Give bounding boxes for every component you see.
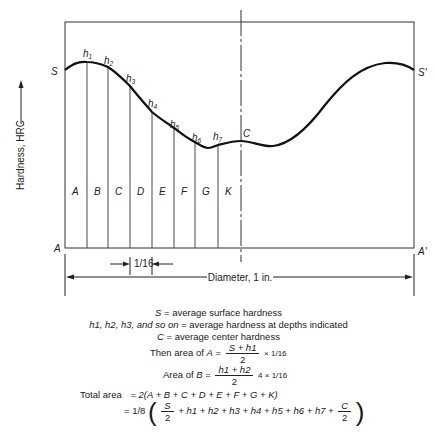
svg-text:E: E xyxy=(159,186,166,197)
legend-depths: h1, h2, h3, and so on = average hardness… xyxy=(0,319,437,330)
formula-area-b: Area of B = h1 + h2 2 4 × 1/16 xyxy=(163,364,287,387)
legend-center: C = average center hardness xyxy=(0,331,437,342)
surface-label-right: S' xyxy=(418,67,428,78)
depth-labels: h1 h2 h3 h4 h5 h6 h7 xyxy=(83,48,223,144)
segment-dividers xyxy=(87,62,218,248)
legend-text-s: = average surface hardness xyxy=(161,307,282,318)
formula-b-suffix: 4 × 1/16 xyxy=(258,371,287,380)
y-axis-label: Hardness, HRC xyxy=(15,120,26,190)
svg-text:K: K xyxy=(225,186,233,197)
hardness-profile-diagram: Hardness, HRC S S' A A' C h1 h2 h3 h4 h5… xyxy=(0,0,437,300)
svg-text:h7: h7 xyxy=(213,131,223,143)
baseline-label-left: A xyxy=(53,243,61,254)
total-terms: + h1 + h2 + h3 + h4 + h5 + h6 + h7 + xyxy=(178,405,333,416)
svg-text:F: F xyxy=(181,186,188,197)
legend-text-h: = average hardness at depths indicated xyxy=(179,319,348,330)
center-hardness-label: C xyxy=(243,128,251,139)
formula-total-line2: = 1/8 ( S 2 + h1 + h2 + h3 + h4 + h5 + h… xyxy=(124,400,364,423)
formula-b-fraction: h1 + h2 2 xyxy=(215,364,253,387)
svg-text:C: C xyxy=(115,186,123,197)
svg-text:h1: h1 xyxy=(83,48,93,60)
formula-area-a: Then area of A = S + h1 2 × 1/16 xyxy=(150,342,287,365)
formula-total-line1: Total area = 2(A + B + C + D + E + F + G… xyxy=(80,389,278,400)
legend-text-c: = average center hardness xyxy=(164,331,280,342)
increment-label: 1/16 xyxy=(134,258,154,269)
surface-label-left: S xyxy=(51,66,58,77)
c-over-2-fraction: C 2 xyxy=(338,400,351,423)
hardness-curve xyxy=(65,62,414,148)
svg-text:h6: h6 xyxy=(192,132,202,144)
svg-text:B: B xyxy=(94,186,101,197)
y-axis-arrow xyxy=(19,80,24,124)
legend-symbol-c: C xyxy=(157,331,164,342)
total-area-label: Total area xyxy=(80,389,122,400)
svg-text:D: D xyxy=(137,186,144,197)
formula-b-prefix: Area of xyxy=(163,369,196,380)
formula-a-var: A xyxy=(207,347,213,358)
diameter-label: Diameter, 1 in. xyxy=(208,272,272,283)
s-over-2-fraction: S 2 xyxy=(161,400,173,423)
legend-symbol-h: h1, h2, h3, and so on xyxy=(89,319,178,330)
plot-frame xyxy=(65,22,414,248)
svg-text:h5: h5 xyxy=(170,119,180,131)
formula-a-fraction: S + h1 2 xyxy=(226,342,260,365)
formula-a-prefix: Then area of xyxy=(150,347,207,358)
legend-surface: S = average surface hardness xyxy=(0,307,437,318)
total-factor: = 1/8 xyxy=(124,405,145,416)
svg-text:A: A xyxy=(71,186,79,197)
formula-b-var: B xyxy=(196,369,202,380)
svg-text:h4: h4 xyxy=(148,98,158,110)
svg-text:h3: h3 xyxy=(126,73,136,85)
svg-text:G: G xyxy=(202,186,210,197)
svg-text:h2: h2 xyxy=(104,55,114,67)
formula-a-suffix: × 1/16 xyxy=(264,349,286,358)
baseline-label-right: A' xyxy=(417,246,428,257)
